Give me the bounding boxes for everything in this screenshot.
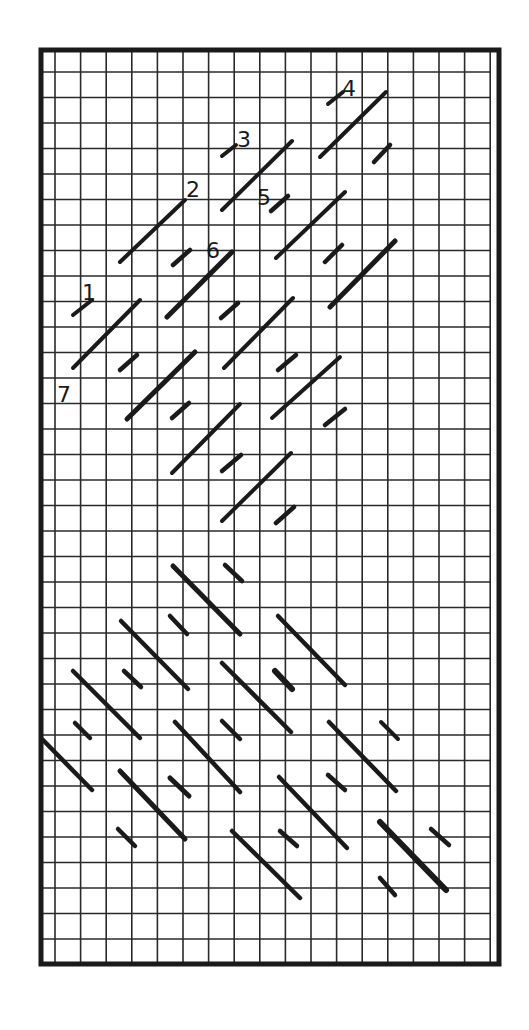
grid-diagram: 1234567 (0, 0, 529, 1030)
number-label: 5 (257, 185, 271, 210)
number-label: 4 (342, 76, 356, 101)
number-label: 7 (57, 382, 71, 407)
number-label: 2 (186, 177, 200, 202)
number-label: 1 (82, 280, 96, 305)
number-label: 3 (237, 127, 251, 152)
number-label: 6 (206, 238, 220, 263)
background (0, 0, 529, 1030)
